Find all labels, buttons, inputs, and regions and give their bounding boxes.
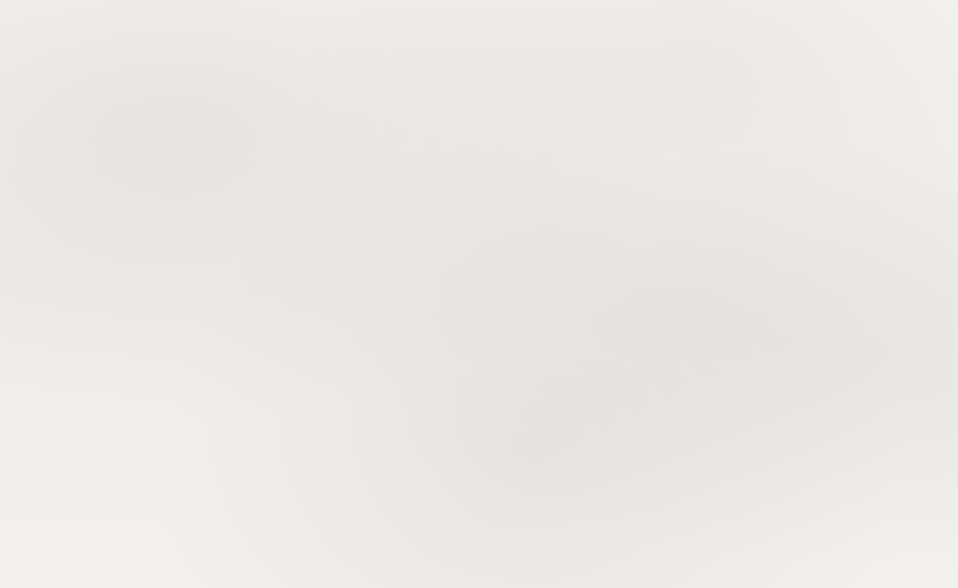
x-tick-label: 2012 bbox=[296, 417, 376, 442]
chart-legend: Row1Row2 bbox=[0, 524, 958, 549]
legend-item[interactable]: Row1 bbox=[351, 524, 457, 549]
x-tick-label: 2017 bbox=[689, 417, 769, 442]
x-tick-label: 2010 bbox=[139, 417, 219, 442]
x-axis-tick-labels: 2010201120122013201420152016201720182019 bbox=[0, 0, 958, 588]
legend-label: Row2 bbox=[555, 524, 607, 549]
legend-marker-icon bbox=[370, 530, 384, 544]
legend-label: Row1 bbox=[405, 524, 457, 549]
x-tick-label: 2016 bbox=[610, 417, 690, 442]
legend-swatch bbox=[351, 527, 403, 547]
x-axis-label: Year bbox=[0, 455, 958, 481]
line-chart: The pace of development of the construct… bbox=[0, 0, 958, 588]
legend-swatch bbox=[501, 527, 553, 547]
x-tick-label: 2013 bbox=[375, 417, 455, 442]
x-tick-label: 2019 bbox=[846, 417, 926, 442]
x-tick-label: 2018 bbox=[767, 417, 847, 442]
x-tick-label: 2015 bbox=[532, 417, 612, 442]
legend-marker-icon bbox=[520, 530, 534, 544]
x-tick-label: 2011 bbox=[218, 417, 298, 442]
legend-item[interactable]: Row2 bbox=[501, 524, 607, 549]
x-tick-label: 2014 bbox=[453, 417, 533, 442]
